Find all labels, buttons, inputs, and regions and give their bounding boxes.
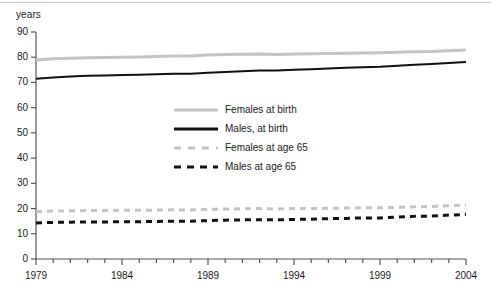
x-tick-label: 1989 xyxy=(186,270,230,281)
y-tick-label: 30 xyxy=(6,177,28,188)
x-tick-label: 1999 xyxy=(358,270,402,281)
legend-item: Males at age 65 xyxy=(174,157,374,176)
x-tick-label: 1979 xyxy=(14,270,58,281)
y-tick-label: 0 xyxy=(6,253,28,264)
y-axis-unit-label: years xyxy=(16,9,41,20)
x-tick-label: 1994 xyxy=(272,270,316,281)
y-tick-label: 60 xyxy=(6,102,28,113)
legend-swatch-icon xyxy=(174,123,218,135)
life-expectancy-line-chart: years 9080706050403020100 19791984198919… xyxy=(0,0,491,299)
legend-swatch-icon xyxy=(174,104,218,116)
y-tick-label: 10 xyxy=(6,228,28,239)
series-line xyxy=(36,205,466,212)
legend-item: Males, at birth xyxy=(174,119,374,138)
y-tick-label: 50 xyxy=(6,127,28,138)
legend-swatch-icon xyxy=(174,161,218,173)
x-tick-label: 2004 xyxy=(444,270,488,281)
legend-label: Males at age 65 xyxy=(225,161,296,172)
series-line xyxy=(36,62,466,79)
y-tick-label: 90 xyxy=(6,26,28,37)
legend-label: Females at age 65 xyxy=(225,142,308,153)
legend-swatch-icon xyxy=(174,142,218,154)
y-tick-label: 70 xyxy=(6,76,28,87)
x-tick-label: 1984 xyxy=(100,270,144,281)
legend-label: Females at birth xyxy=(225,104,297,115)
chart-legend: Females at birthMales, at birthFemales a… xyxy=(174,100,374,176)
x-axis-ticks xyxy=(36,259,466,265)
y-tick-label: 20 xyxy=(6,203,28,214)
legend-label: Males, at birth xyxy=(225,123,288,134)
series-line xyxy=(36,50,466,60)
y-tick-label: 80 xyxy=(6,51,28,62)
series-line xyxy=(36,214,466,223)
y-axis-ticks xyxy=(31,32,36,259)
legend-item: Females at age 65 xyxy=(174,138,374,157)
y-tick-label: 40 xyxy=(6,152,28,163)
legend-item: Females at birth xyxy=(174,100,374,119)
